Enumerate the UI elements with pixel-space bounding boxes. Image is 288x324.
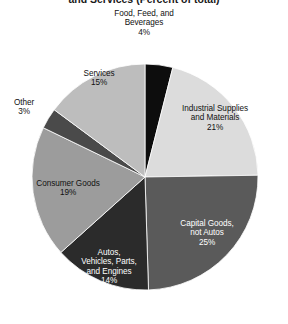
pie-slice-group	[32, 64, 258, 290]
pie-chart-svg	[0, 0, 288, 324]
pie-chart-figure: and Services (Percent of total) Food, Fe…	[0, 0, 288, 324]
pie-slice	[145, 175, 258, 290]
